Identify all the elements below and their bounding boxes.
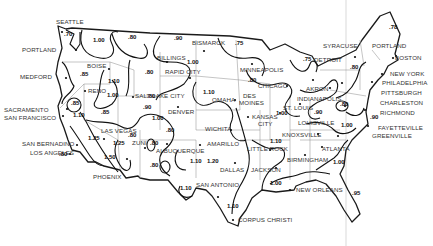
- city-label: SACRAMENTO: [4, 106, 49, 113]
- city-marker-icon: [286, 85, 288, 87]
- city-label: LITTLE ROCK: [247, 145, 289, 152]
- city-label: AMARILLO: [207, 140, 239, 147]
- factor-value: 1.10: [180, 185, 192, 191]
- factor-value: .80: [350, 64, 359, 70]
- city-marker-icon: [108, 68, 110, 70]
- city-marker-icon: [312, 79, 314, 81]
- city-marker-icon: [232, 219, 234, 221]
- city-marker-icon: [269, 149, 271, 151]
- factor-value: .80: [145, 69, 154, 75]
- factor-value: .85: [101, 109, 110, 115]
- factor-value: 1.10: [270, 138, 282, 144]
- city-marker-icon: [321, 146, 323, 148]
- factor-value: 1.20: [207, 158, 219, 164]
- city-label: OMAHA: [212, 96, 236, 103]
- city-label: CHARLESTON: [380, 99, 423, 106]
- factor-value: 1.00: [341, 122, 353, 128]
- factor-value: 1.00: [93, 37, 105, 43]
- city-label: SAN FRANCISCO: [4, 114, 56, 121]
- city-label: ATLANTA: [322, 145, 350, 152]
- factor-value: .78: [389, 24, 398, 30]
- city-label: ALBUQUERQUE: [156, 147, 205, 154]
- city-label: GREENVILLE: [372, 132, 412, 139]
- city-label: SAN BERNADINO: [22, 140, 75, 147]
- city-label: WICHITA: [205, 125, 232, 132]
- factor-value: 1.10: [227, 203, 239, 209]
- factor-value: .80: [150, 140, 159, 146]
- factor-value: 1.10: [190, 158, 202, 164]
- city-marker-icon: [341, 82, 343, 84]
- factor-value: .75: [235, 40, 244, 46]
- factor-value: 1.25: [88, 135, 100, 141]
- city-marker-icon: [275, 167, 277, 169]
- city-marker-icon: [337, 135, 339, 137]
- city-marker-icon: [166, 61, 168, 63]
- city-label: RAPID CITY: [165, 68, 201, 75]
- city-marker-icon: [251, 63, 253, 65]
- city-marker-icon: [65, 77, 67, 79]
- factor-value: .80: [59, 151, 68, 157]
- city-marker-icon: [66, 108, 68, 110]
- city-label: DENVER: [168, 108, 195, 115]
- city-marker-icon: [75, 49, 77, 51]
- city-label: SALT LAKE CITY: [135, 92, 185, 99]
- factor-value: .85: [71, 100, 80, 106]
- city-label: PORTLAND: [22, 46, 57, 53]
- city-label: KNOXSVILLE: [282, 131, 322, 138]
- city-marker-icon: [199, 144, 201, 146]
- factor-value: .95: [352, 190, 361, 196]
- city-marker-icon: [177, 106, 179, 108]
- city-label: LOS ANGELES: [30, 149, 74, 156]
- factor-value: .70: [64, 31, 73, 37]
- city-label: RENO: [88, 87, 106, 94]
- factor-value: .75: [303, 56, 312, 62]
- city-marker-icon: [247, 116, 249, 118]
- city-label: BIRMINGHAM: [287, 156, 328, 163]
- city-label: MEDFORD: [20, 73, 52, 80]
- factor-value: 1.00: [333, 159, 345, 165]
- factor-value: .90: [174, 35, 183, 41]
- city-label: PITTSBURGH: [381, 89, 422, 96]
- factor-value: 1.00: [270, 180, 282, 186]
- city-label: AKRON: [306, 85, 329, 92]
- city-marker-icon: [354, 56, 356, 58]
- city-label: INDIANAPOLIS: [297, 95, 342, 102]
- city-marker-icon: [364, 109, 366, 111]
- factor-value: 1.00: [276, 110, 288, 116]
- city-label: PHOENIX: [93, 173, 122, 180]
- city-marker-icon: [317, 133, 319, 135]
- factor-value: 1.10: [108, 78, 120, 84]
- city-label: DES: [243, 92, 256, 99]
- city-label: CITY: [258, 120, 273, 127]
- city-label: NEW YORK: [390, 70, 425, 77]
- city-label: BISMARCK: [192, 39, 226, 46]
- city-label: LOUISVILLE: [298, 119, 334, 126]
- factor-value: .90: [370, 114, 379, 120]
- us-contour-map: SEATTLEPORTLANDMEDFORDBOISERENOSACRAMENT…: [0, 0, 433, 246]
- city-label: MOINES: [239, 99, 264, 106]
- factor-value: 1.00: [107, 92, 119, 98]
- city-label: BOISE: [87, 62, 106, 69]
- factor-value: 1.25: [113, 140, 125, 146]
- city-marker-icon: [299, 103, 301, 105]
- city-label: SYRACUSE: [323, 42, 358, 49]
- city-marker-icon: [189, 77, 191, 79]
- city-marker-icon: [371, 81, 373, 83]
- factor-value: 1.10: [203, 89, 215, 95]
- factor-value: .80: [147, 93, 156, 99]
- city-marker-icon: [144, 147, 146, 149]
- factor-value: .80: [248, 77, 257, 83]
- factor-value: 1.50: [104, 154, 116, 160]
- city-marker-icon: [304, 154, 306, 156]
- city-label: FAYETTEVILLE: [378, 124, 423, 131]
- city-label: DETROIT: [314, 56, 342, 63]
- city-marker-icon: [132, 96, 134, 98]
- city-label: ZUNI: [132, 139, 147, 146]
- factor-value: .85: [80, 71, 89, 77]
- city-label: PHILADELPHIA: [382, 79, 428, 86]
- city-label: DALLAS: [220, 166, 244, 173]
- city-marker-icon: [61, 31, 63, 33]
- city-label: NEW ORLEANS: [296, 186, 343, 193]
- city-label: CORPUS CHRISTI: [238, 216, 293, 223]
- city-label: RICHMOND: [380, 109, 415, 116]
